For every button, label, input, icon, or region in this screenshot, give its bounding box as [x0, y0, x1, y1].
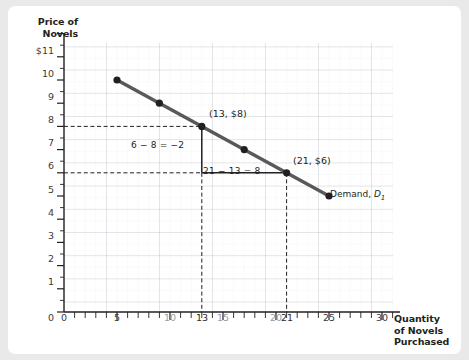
x-tick-label-0: 0 [52, 312, 76, 323]
screenshot-root: Price of Novels Quantity of Novels Purch… [0, 0, 469, 360]
point-label-21-6: (21, $6) [293, 155, 331, 166]
plot-grid [64, 43, 393, 312]
demand-curve-label-subscript: 1 [381, 194, 385, 202]
x-tick-label-30: 30 [370, 312, 394, 323]
y-tick-label-9: 9 [18, 91, 54, 102]
y-tick-label-4: 4 [18, 207, 54, 218]
data-point-5-10 [113, 76, 120, 83]
demand-curve-label: Demand, D1 [330, 189, 385, 202]
y-tick-label-8: 8 [18, 114, 54, 125]
y-axis-title-line2: Novels [22, 28, 78, 40]
data-point-21-6 [283, 169, 290, 176]
rise-calculation-label: 6 − 8 = −2 [131, 140, 184, 150]
run-calculation-label: 21 − 13 = 8 [203, 166, 260, 176]
y-tick-label-3: 3 [18, 230, 54, 241]
x-axis-title-line3: Purchased [394, 336, 466, 348]
y-axis-ticks [57, 34, 64, 312]
y-tick-label-5: 5 [18, 184, 54, 195]
data-point-17-7 [241, 146, 248, 153]
demand-curve-label-text: Demand, [330, 189, 374, 199]
x-tick-label-5: 5 [105, 312, 129, 323]
y-axis-title-line1: Price of [22, 16, 78, 28]
x-axis-title-line1: Quantity [394, 313, 466, 325]
y-tick-label-2: 2 [18, 253, 54, 264]
y-tick-label-0: 0 [18, 312, 54, 323]
x-tick-label-15: 15 [211, 312, 235, 323]
y-tick-label-7: 7 [18, 137, 54, 148]
x-tick-label-21: 21 [275, 312, 299, 323]
y-tick-label-10: 10 [18, 68, 54, 79]
y-tick-label-6: 6 [18, 160, 54, 171]
point-label-13-8: (13, $8) [209, 108, 247, 119]
y-tick-label-1: 1 [18, 276, 54, 287]
demand-curve-figure [0, 0, 469, 360]
x-axis-title-line2: of Novels [394, 325, 466, 337]
x-tick-label-10: 10 [158, 312, 182, 323]
x-tick-label-25: 25 [317, 312, 341, 323]
y-tick-label-11: $11 [18, 45, 54, 56]
data-point-9-9 [156, 100, 163, 107]
data-point-13-8 [198, 123, 205, 130]
demand-curve-label-symbol: D [374, 189, 381, 199]
